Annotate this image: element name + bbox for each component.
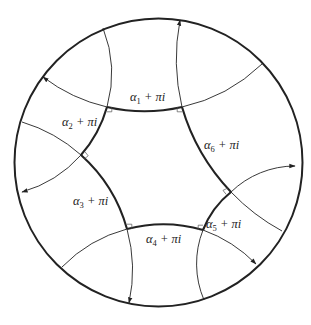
geodesic-extension <box>103 28 112 107</box>
poincare-disk-boundary <box>15 19 303 307</box>
label-side1: α1 + πi <box>130 90 166 106</box>
hexagon-diagram: α1 + πiα2 + πiα3 + πiα4 + πiα5 + πiα6 + … <box>0 0 311 325</box>
geodesic-extension <box>231 166 295 192</box>
label-side2: α2 + πi <box>62 115 98 131</box>
geodesic-extension <box>127 229 133 303</box>
hexagon-side <box>81 155 127 229</box>
label-side5: α5 + πi <box>206 217 242 233</box>
label-side6: α6 + πi <box>204 138 240 154</box>
geodesic-extension <box>203 230 256 264</box>
geodesic-extension <box>176 20 182 107</box>
geodesic-extension <box>43 77 107 107</box>
hexagon-side <box>107 107 182 111</box>
geodesic-extension <box>62 229 127 267</box>
right-angle-marks <box>84 107 228 230</box>
hexagon-side <box>127 224 203 230</box>
label-side3: α3 + πi <box>73 194 109 210</box>
geodesic-extension <box>197 230 204 300</box>
geodesic-extension <box>22 155 81 192</box>
label-side4: α4 + πi <box>146 232 182 248</box>
geodesic-extension <box>182 64 262 107</box>
geodesic-lines <box>22 20 295 303</box>
